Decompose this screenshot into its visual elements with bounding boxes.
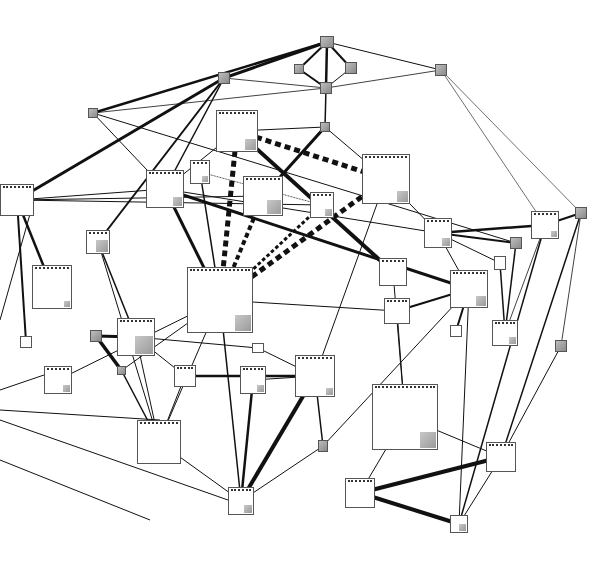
edge xyxy=(441,70,545,225)
node-swatch xyxy=(476,296,486,306)
graph-node[interactable] xyxy=(362,154,410,204)
node-swatch xyxy=(397,191,408,202)
graph-node[interactable] xyxy=(252,343,264,353)
graph-node[interactable] xyxy=(450,325,462,337)
node-label xyxy=(382,260,404,265)
node-label xyxy=(243,368,263,373)
edge xyxy=(501,346,561,457)
graph-node[interactable] xyxy=(345,478,375,508)
node-swatch xyxy=(245,139,256,150)
node-label xyxy=(231,489,251,494)
graph-node[interactable] xyxy=(492,320,518,346)
node-swatch xyxy=(551,231,557,237)
edge xyxy=(224,78,326,88)
node-swatch xyxy=(459,524,466,531)
graph-node[interactable] xyxy=(384,298,410,324)
graph-node[interactable] xyxy=(218,72,230,84)
graph-node[interactable] xyxy=(320,36,334,48)
node-swatch xyxy=(257,385,264,392)
node-label xyxy=(35,267,69,272)
node-label xyxy=(365,156,407,161)
graph-node[interactable] xyxy=(90,330,102,342)
node-swatch xyxy=(325,209,332,216)
node-label xyxy=(149,172,181,177)
node-label xyxy=(313,194,331,199)
edge xyxy=(561,213,581,346)
edge xyxy=(326,70,441,88)
graph-node[interactable] xyxy=(435,64,447,76)
node-label xyxy=(489,444,513,449)
graph-node[interactable] xyxy=(190,160,210,184)
graph-node[interactable] xyxy=(88,108,98,118)
graph-node[interactable] xyxy=(20,336,32,348)
node-swatch xyxy=(235,315,251,331)
graph-node[interactable] xyxy=(228,487,254,515)
graph-node[interactable] xyxy=(575,207,587,219)
graph-node[interactable] xyxy=(510,237,522,249)
edge-layer xyxy=(0,0,604,566)
node-swatch xyxy=(442,238,450,246)
node-label xyxy=(3,186,31,191)
node-swatch xyxy=(63,385,70,392)
node-label xyxy=(190,269,250,274)
edge xyxy=(93,42,327,113)
graph-node[interactable] xyxy=(137,420,181,464)
graph-node[interactable] xyxy=(187,267,253,333)
graph-node[interactable] xyxy=(379,258,407,286)
graph-node[interactable] xyxy=(450,515,468,533)
edge xyxy=(0,420,228,500)
graph-node[interactable] xyxy=(320,122,330,132)
graph-node[interactable] xyxy=(424,218,452,248)
graph-node[interactable] xyxy=(44,366,72,394)
graph-node[interactable] xyxy=(243,176,283,216)
graph-node[interactable] xyxy=(240,366,266,394)
graph-node[interactable] xyxy=(450,270,488,308)
node-label xyxy=(193,162,207,167)
node-swatch xyxy=(173,197,182,206)
graph-node[interactable] xyxy=(486,442,516,472)
graph-node[interactable] xyxy=(0,184,34,216)
node-swatch xyxy=(64,301,70,307)
edge xyxy=(0,410,160,420)
node-label xyxy=(120,320,152,325)
graph-node[interactable] xyxy=(531,211,559,239)
graph-node[interactable] xyxy=(310,192,334,218)
node-swatch xyxy=(326,388,333,395)
graph-node[interactable] xyxy=(216,110,258,152)
graph-node[interactable] xyxy=(345,62,357,74)
node-label xyxy=(375,386,435,391)
node-label xyxy=(140,422,178,427)
node-swatch xyxy=(509,337,516,344)
graph-node[interactable] xyxy=(294,64,304,74)
graph-node[interactable] xyxy=(555,340,567,352)
node-swatch xyxy=(420,432,436,448)
node-label xyxy=(89,232,107,237)
graph-node[interactable] xyxy=(320,82,332,94)
node-label xyxy=(534,213,556,218)
graph-node[interactable] xyxy=(146,170,184,208)
graph-node[interactable] xyxy=(318,440,328,452)
edge xyxy=(17,196,263,200)
edge xyxy=(441,70,581,213)
graph-node[interactable] xyxy=(494,256,506,270)
edge xyxy=(0,375,44,390)
node-label xyxy=(427,220,449,225)
node-swatch xyxy=(96,240,108,252)
graph-node[interactable] xyxy=(295,355,335,397)
node-swatch xyxy=(267,200,281,214)
graph-node[interactable] xyxy=(117,318,155,356)
node-label xyxy=(495,322,515,327)
node-label xyxy=(298,357,332,362)
graph-node[interactable] xyxy=(86,230,110,254)
node-swatch xyxy=(202,176,208,182)
graph-node[interactable] xyxy=(117,366,126,375)
node-swatch xyxy=(244,505,252,513)
graph-node[interactable] xyxy=(32,265,72,309)
graph-node[interactable] xyxy=(372,384,438,450)
node-label xyxy=(246,178,280,183)
graph-node[interactable] xyxy=(174,365,196,387)
node-label xyxy=(348,480,372,485)
node-label xyxy=(177,367,193,372)
edge xyxy=(360,457,501,493)
node-label xyxy=(387,300,407,305)
